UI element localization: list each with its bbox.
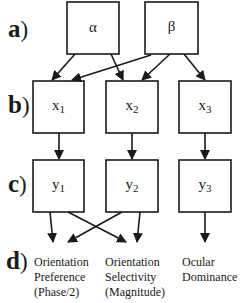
var-base: y	[52, 176, 60, 192]
output-orientation-selectivity: Orientation Selectivity (Magnitude)	[105, 255, 165, 300]
output-line: Ocular	[182, 255, 237, 270]
node-alpha-label: α	[67, 20, 119, 35]
output-line: Orientation	[105, 255, 165, 270]
var-base: x	[126, 97, 134, 113]
row-paren: )	[19, 172, 27, 197]
row-letter: a	[8, 15, 21, 42]
var-subscript: 2	[133, 182, 139, 194]
node-y3-label: y3	[179, 177, 231, 194]
row-letter: d	[6, 247, 20, 274]
var-subscript: 3	[206, 182, 212, 194]
row-label-b: b)	[8, 92, 30, 117]
edge-beta-x2	[142, 54, 170, 80]
node-x3-label: x3	[179, 98, 231, 115]
var-base: x	[199, 97, 207, 113]
row-paren: )	[22, 93, 30, 118]
output-ocular-dominance: Ocular Dominance	[182, 255, 237, 285]
edge-alpha-x1	[52, 54, 75, 80]
var-subscript: 1	[60, 103, 66, 115]
var-subscript: 1	[60, 182, 66, 194]
edge-y2-selectivity	[137, 212, 140, 242]
var-base: y	[126, 176, 134, 192]
edge-beta-x3	[184, 54, 205, 80]
output-line: Selectivity	[105, 270, 165, 285]
row-paren: )	[20, 249, 28, 274]
edge-beta-x1	[72, 55, 151, 80]
row-letter: b	[8, 91, 22, 118]
output-line: Orientation	[34, 255, 89, 270]
alpha-symbol: α	[89, 19, 97, 35]
node-x2-label: x2	[106, 98, 158, 115]
output-orientation-preference: Orientation Preference (Phase/2)	[34, 255, 89, 300]
output-line: (Phase/2)	[34, 285, 89, 300]
output-line: (Magnitude)	[105, 285, 165, 300]
var-base: x	[52, 97, 60, 113]
output-line: Dominance	[182, 270, 237, 285]
var-subscript: 2	[133, 103, 139, 115]
row-label-d: d)	[6, 248, 28, 273]
node-y1-label: y1	[33, 177, 84, 194]
output-line: Preference	[34, 270, 89, 285]
row-label-a: a)	[8, 16, 28, 41]
var-base: y	[199, 176, 207, 192]
row-label-c: c)	[8, 171, 27, 196]
node-x1-label: x1	[33, 98, 84, 115]
node-beta-label: β	[145, 19, 198, 34]
edge-y1-preference	[50, 212, 53, 242]
beta-symbol: β	[168, 18, 176, 34]
row-paren: )	[21, 17, 29, 42]
row-letter: c	[8, 170, 19, 197]
var-subscript: 3	[206, 103, 212, 115]
node-y2-label: y2	[106, 177, 158, 194]
